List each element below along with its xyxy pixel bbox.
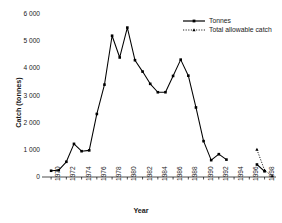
x-tick-label-1982: 1982 [146,166,153,181]
y-tick-label-1000: 1 000 [8,146,40,153]
x-axis-ticks [51,177,264,180]
x-tick-label-1976: 1976 [100,166,107,181]
y-tick-label-5000: 5 000 [8,37,40,44]
y-tick-label-2000: 2 000 [8,119,40,126]
x-tick-label-1994: 1994 [237,166,244,181]
y-tick-label-6000: 6 000 [8,10,40,17]
x-tick-label-1998: 1998 [268,166,275,181]
x-axis-title: Year [0,206,282,215]
x-tick-label-1990: 1990 [207,166,214,181]
x-tick-label-1986: 1986 [176,166,183,181]
x-tick-label-1974: 1974 [85,166,92,181]
chart-plot-area [0,0,282,223]
chart-container: Catch (tonnes) Year 6 000 5 000 4 000 3 … [0,0,282,223]
x-tick-label-1970: 1970 [54,166,61,181]
legend-item-tonnes: Tonnes [209,17,231,24]
x-tick-label-1988: 1988 [191,166,198,181]
y-tick-label-4000: 4 000 [8,64,40,71]
x-tick-label-1972: 1972 [69,166,76,181]
y-tick-label-0: 0 [8,173,40,180]
y-tick-label-3000: 3 000 [8,92,40,99]
legend-item-total-allowable-catch: Total allowable catch [209,26,272,33]
series-tonnes-line [51,28,226,171]
legend-glyphs [183,20,205,32]
x-tick-label-1996: 1996 [252,166,259,181]
x-tick-label-1984: 1984 [161,166,168,181]
series-tonnes-markers [50,26,228,172]
x-tick-label-1992: 1992 [222,166,229,181]
x-tick-label-1978: 1978 [115,166,122,181]
x-tick-label-1980: 1980 [130,166,137,181]
